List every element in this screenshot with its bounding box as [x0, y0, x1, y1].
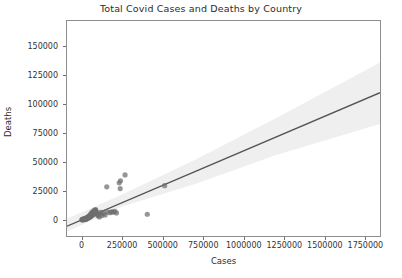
x-tick-label: 1250000 [266, 241, 302, 250]
scatter-point [118, 178, 123, 183]
scatter-point [162, 183, 167, 188]
y-tick-label: 0 [0, 215, 58, 224]
y-tick-label: 50000 [0, 158, 58, 167]
x-tick-mark [365, 237, 366, 240]
scatter-point [122, 172, 127, 177]
plot-canvas [67, 21, 380, 236]
x-tick-mark [82, 237, 83, 240]
x-axis-label: Cases [66, 256, 381, 266]
scatter-point [114, 210, 119, 215]
x-tick-label: 500000 [147, 241, 178, 250]
x-tick-mark [122, 237, 123, 240]
x-tick-label: 1500000 [307, 241, 343, 250]
y-tick-label: 25000 [0, 186, 58, 195]
y-tick-label: 100000 [0, 100, 58, 109]
x-tick-label: 1000000 [226, 241, 262, 250]
scatter-point [118, 186, 123, 191]
x-tick-mark [244, 237, 245, 240]
x-tick-label: 1750000 [348, 241, 384, 250]
y-tick-label: 150000 [0, 42, 58, 51]
scatter-point [145, 212, 150, 217]
y-tick-label: 75000 [0, 129, 58, 138]
y-tick-label: 125000 [0, 71, 58, 80]
chart-figure: Total Covid Cases and Deaths by Country … [0, 0, 402, 278]
chart-title: Total Covid Cases and Deaths by Country [0, 3, 402, 14]
x-tick-mark [325, 237, 326, 240]
x-tick-mark [284, 237, 285, 240]
x-tick-mark [203, 237, 204, 240]
x-tick-label: 250000 [107, 241, 138, 250]
scatter-point [104, 184, 109, 189]
x-tick-label: 0 [79, 241, 84, 250]
plot-area [66, 20, 381, 237]
regression-line [67, 93, 380, 227]
x-tick-label: 750000 [188, 241, 219, 250]
x-tick-mark [163, 237, 164, 240]
